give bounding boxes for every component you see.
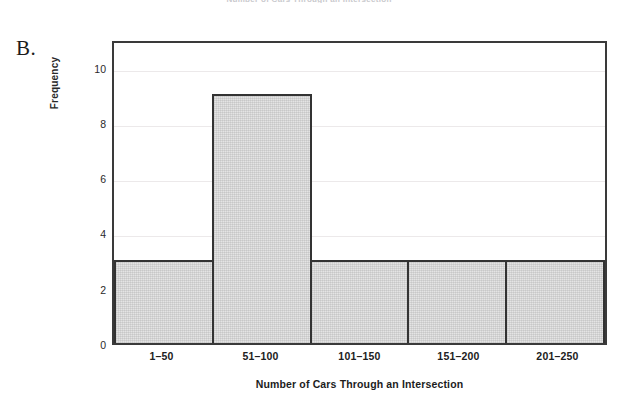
plot-area: [112, 41, 607, 345]
x-axis-tick-label: 1–50: [112, 350, 211, 366]
y-axis-title: Frequency: [48, 8, 62, 158]
x-axis-title: Number of Cars Through an Intersection: [112, 378, 607, 390]
bar: [114, 260, 214, 343]
y-axis-tick-label: 2: [78, 285, 106, 295]
bar: [310, 260, 410, 343]
x-axis-tick-label: 101–150: [310, 350, 409, 366]
y-axis-tick-label: 4: [78, 229, 106, 239]
y-axis-tick-label: 10: [78, 64, 106, 74]
bar: [407, 260, 507, 343]
y-axis-tick-label: 0: [78, 340, 106, 350]
plot-inner: [114, 43, 605, 343]
y-axis-tick-labels: 0246810: [78, 41, 106, 345]
x-axis-tick-label: 51–100: [211, 350, 310, 366]
bar: [505, 260, 605, 343]
x-axis-tick-labels: 1–5051–100101–150151–200201–250: [112, 350, 607, 366]
bars: [114, 43, 605, 343]
x-axis-tick-label: 201–250: [508, 350, 607, 366]
y-axis-tick-label: 8: [78, 119, 106, 129]
histogram-figure: Frequency 0246810 1–5051–100101–150151–2…: [0, 0, 618, 408]
y-axis-tick-label: 6: [78, 174, 106, 184]
x-axis-tick-label: 151–200: [409, 350, 508, 366]
bar: [212, 94, 312, 343]
